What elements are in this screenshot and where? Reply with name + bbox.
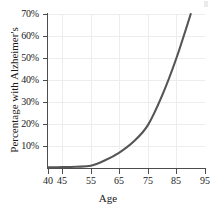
gridline-horizontal xyxy=(48,124,205,125)
y-tick-label: 60% xyxy=(21,31,39,41)
y-tick-mark xyxy=(43,124,48,125)
y-tick-label: 70% xyxy=(21,9,39,19)
x-tick-mark xyxy=(62,169,63,174)
x-tick-label: 85 xyxy=(164,176,188,186)
y-tick-mark xyxy=(43,36,48,37)
gridline-horizontal xyxy=(48,36,205,37)
y-axis-title: Percentage with Alzheimer's xyxy=(8,7,20,173)
x-tick-mark xyxy=(119,169,120,174)
x-tick-label: 55 xyxy=(79,176,103,186)
y-tick-mark xyxy=(43,102,48,103)
y-tick-mark xyxy=(43,58,48,59)
gridline-vertical xyxy=(62,14,63,168)
gridline-horizontal xyxy=(48,146,205,147)
y-tick-mark xyxy=(43,14,48,15)
x-tick-mark xyxy=(205,169,206,174)
x-axis-spine xyxy=(47,168,206,169)
x-tick-label: 75 xyxy=(136,176,160,186)
y-tick-label: 10% xyxy=(21,141,39,151)
y-tick-label: 40% xyxy=(21,75,39,85)
gridline-vertical xyxy=(91,14,92,168)
y-tick-label: 50% xyxy=(21,53,39,63)
gridline-vertical xyxy=(148,14,149,168)
gridline-horizontal xyxy=(48,58,205,59)
gridline-horizontal xyxy=(48,14,205,15)
y-tick-mark xyxy=(43,80,48,81)
x-tick-mark xyxy=(48,169,49,174)
corner-artifact xyxy=(204,1,208,7)
y-tick-label: 20% xyxy=(21,119,39,129)
y-tick-label: 30% xyxy=(21,97,39,107)
x-tick-label: 65 xyxy=(107,176,131,186)
gridline-horizontal xyxy=(48,80,205,81)
x-tick-mark xyxy=(91,169,92,174)
gridline-vertical xyxy=(119,14,120,168)
x-tick-mark xyxy=(148,169,149,174)
x-axis-title: Age xyxy=(0,192,216,204)
alzheimers-prevalence-chart: 10%20%30%40%50%60%70% 40455565758595 Age… xyxy=(0,0,216,213)
plot-area xyxy=(48,14,205,168)
x-tick-label: 45 xyxy=(50,176,74,186)
gridline-vertical xyxy=(176,14,177,168)
x-tick-mark xyxy=(176,169,177,174)
gridline-horizontal xyxy=(48,102,205,103)
y-tick-mark xyxy=(43,146,48,147)
x-tick-label: 95 xyxy=(193,176,216,186)
